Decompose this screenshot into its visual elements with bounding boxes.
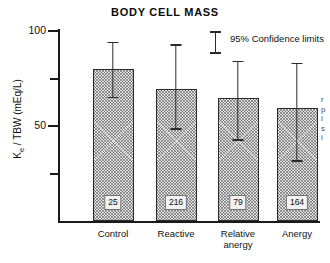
y-tick-25 bbox=[50, 173, 59, 175]
margin-text-fragment-3: s bbox=[321, 124, 330, 134]
bar-sample-size-0: 25 bbox=[104, 195, 121, 210]
x-axis-line bbox=[58, 221, 320, 223]
legend-label: 95% Confidence limits bbox=[230, 33, 324, 44]
error-bar-top-cap-3 bbox=[292, 63, 303, 65]
bar-sample-size-3: 164 bbox=[286, 195, 308, 210]
error-bar-top-cap-0 bbox=[108, 42, 119, 44]
chart-figure: BODY CELL MASS 10050 2521679164 ControlR… bbox=[0, 0, 330, 263]
category-label-3: Anergy bbox=[282, 228, 312, 239]
cropped-margin-text: rpisi bbox=[321, 95, 330, 143]
y-tick-50 bbox=[48, 125, 59, 127]
margin-text-fragment-0: r bbox=[321, 95, 330, 105]
category-label-2: Relative anergy bbox=[221, 228, 255, 250]
y-tick-75 bbox=[50, 78, 59, 80]
margin-text-fragment-4: i bbox=[321, 133, 330, 143]
y-tick-100 bbox=[48, 30, 59, 32]
chart-title: BODY CELL MASS bbox=[0, 6, 330, 18]
margin-text-fragment-2: i bbox=[321, 114, 330, 124]
error-bar-bottom-cap-3 bbox=[292, 160, 303, 162]
bar-sample-size-1: 216 bbox=[165, 195, 187, 210]
error-bar-top-cap-2 bbox=[233, 61, 244, 63]
legend-error-bar-top-cap-icon bbox=[210, 31, 221, 33]
y-axis-label: Ke / TBW (mEq/L) bbox=[12, 54, 26, 184]
error-bar-3 bbox=[296, 63, 297, 161]
bar-sample-size-2: 79 bbox=[229, 195, 246, 210]
y-tick-label-50: 50 bbox=[34, 119, 46, 131]
error-bar-bottom-cap-2 bbox=[233, 139, 244, 141]
error-bar-bottom-cap-1 bbox=[171, 128, 182, 130]
y-tick-label-100: 100 bbox=[28, 24, 46, 36]
error-bar-2 bbox=[237, 61, 238, 140]
category-label-0: Control bbox=[98, 228, 129, 239]
y-axis-label-post: / TBW (mEq/L) bbox=[12, 79, 23, 148]
error-bar-bottom-cap-0 bbox=[108, 97, 119, 99]
y-axis-label-pre: K bbox=[12, 152, 23, 159]
margin-text-fragment-1: p bbox=[321, 105, 330, 115]
category-label-1: Reactive bbox=[158, 228, 195, 239]
error-bar-0 bbox=[112, 42, 113, 97]
error-bar-1 bbox=[175, 45, 176, 129]
legend-error-bar-icon bbox=[215, 31, 216, 53]
legend-error-bar-bottom-cap-icon bbox=[210, 52, 221, 54]
error-bar-top-cap-1 bbox=[171, 44, 182, 46]
y-axis-label-sub: e bbox=[17, 148, 26, 152]
